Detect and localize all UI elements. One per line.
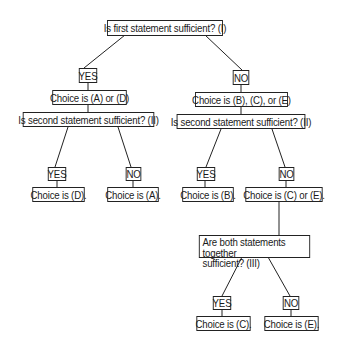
- choice-d: Choice is (D).: [32, 187, 84, 202]
- choice-e: Choice is (E).: [264, 316, 318, 331]
- yes-label-q3: YES: [213, 296, 231, 310]
- choice-b: Choice is (B).: [182, 187, 234, 202]
- question-first-statement: Is first statement sufficient? (I): [107, 20, 223, 36]
- no-label-q2-left: NO: [126, 167, 142, 181]
- yes-label-q2-right: YES: [197, 167, 215, 181]
- no-label-q3: NO: [283, 296, 300, 310]
- no-label-q2-right: NO: [279, 167, 295, 181]
- choice-b-c-or-e: Choice is (B), (C), or (E): [195, 92, 288, 107]
- yes-label-q2-left: YES: [48, 167, 66, 181]
- question-second-statement-right: Is second statement sufficient? (II): [177, 114, 306, 129]
- choice-a: Choice is (A).: [107, 187, 159, 202]
- choice-a-or-d: Choice is (A) or (D): [52, 90, 127, 105]
- no-label-q1: NO: [233, 70, 250, 85]
- question-both-statements: Are both statements together sufficient?…: [199, 235, 310, 258]
- choice-c: Choice is (C).: [196, 316, 250, 331]
- question-both-line1: Are both statements together: [203, 237, 307, 258]
- yes-label-q1: YES: [79, 68, 97, 83]
- choice-c-or-e: Choice is (C) or (E).: [245, 187, 322, 202]
- question-second-statement-left: Is second statement sufficient? (II): [23, 112, 155, 127]
- question-both-line2: sufficient? (III): [203, 258, 307, 269]
